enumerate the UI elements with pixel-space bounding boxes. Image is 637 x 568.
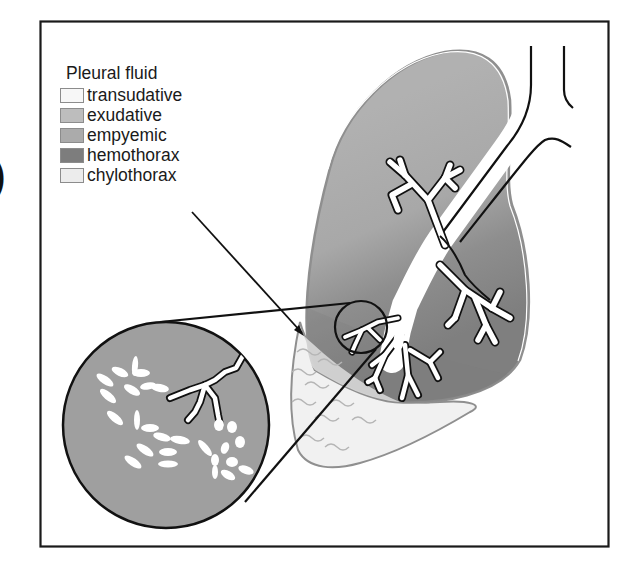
pleural-fluid-diagram: ): [0, 0, 637, 568]
legend-label: chylothorax: [87, 165, 177, 185]
legend-swatch: [60, 128, 84, 143]
lung: [290, 51, 540, 420]
legend-item-chylothorax: chylothorax: [60, 165, 182, 185]
legend-item-exudative: exudative: [60, 105, 182, 125]
legend-label: empyemic: [87, 125, 167, 145]
legend-swatch: [60, 88, 84, 103]
legend-item-hemothorax: hemothorax: [60, 145, 182, 165]
legend-swatch: [60, 108, 84, 123]
legend-item-empyemic: empyemic: [60, 125, 182, 145]
legend-swatch: [60, 168, 84, 183]
legend-item-transudative: transudative: [60, 85, 182, 105]
legend: Pleural fluid transudative exudative emp…: [60, 63, 182, 185]
legend-title: Pleural fluid: [66, 63, 182, 83]
legend-label: exudative: [87, 105, 162, 125]
legend-label: transudative: [87, 85, 182, 105]
magnified-alveoli-view: [63, 322, 269, 528]
legend-label: hemothorax: [87, 145, 179, 165]
legend-swatch: [60, 148, 84, 163]
